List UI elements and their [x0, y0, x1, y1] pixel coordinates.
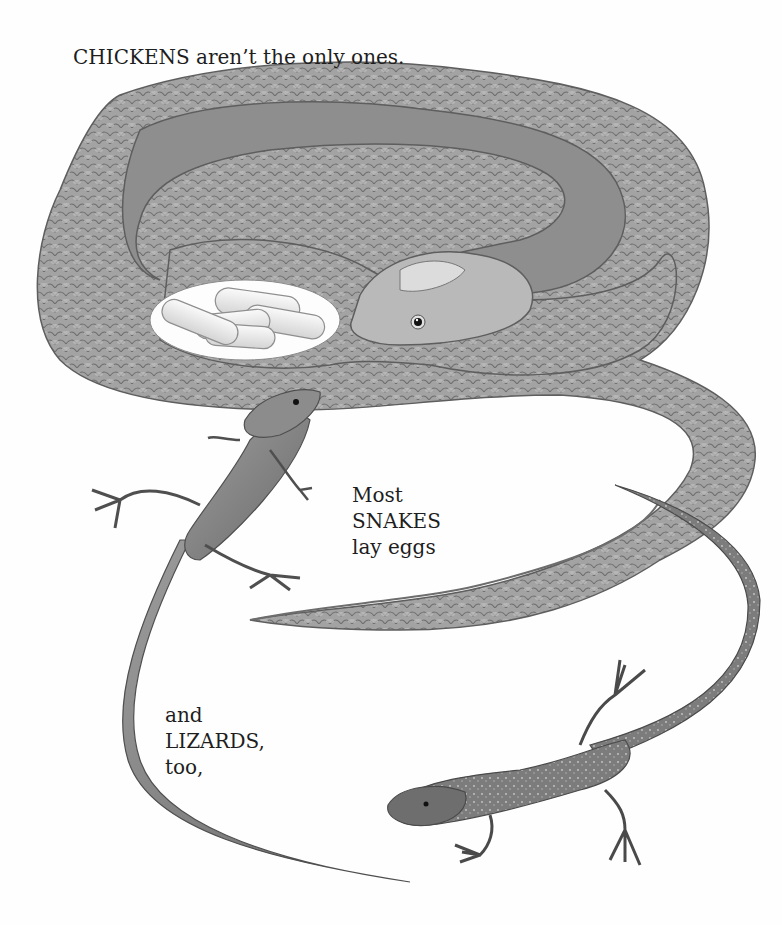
caption-lizards: and LIZARDS, too, [165, 702, 265, 780]
lizard-upper-left [92, 390, 410, 882]
caption-snakes-line: lay eggs [352, 534, 441, 560]
book-page: CHICKENS aren’t the only ones. Most SNAK… [0, 0, 782, 925]
caption-lizards-line: and [165, 702, 265, 728]
lizard-lower-right [388, 485, 760, 865]
caption-lizards-line: too, [165, 754, 265, 780]
caption-snakes-line: SNAKES [352, 508, 441, 534]
caption-lizards-line: LIZARDS, [165, 728, 265, 754]
illustration [0, 0, 782, 925]
caption-snakes-line: Most [352, 482, 441, 508]
caption-chickens: CHICKENS aren’t the only ones. [73, 44, 404, 70]
caption-snakes: Most SNAKES lay eggs [352, 482, 441, 560]
